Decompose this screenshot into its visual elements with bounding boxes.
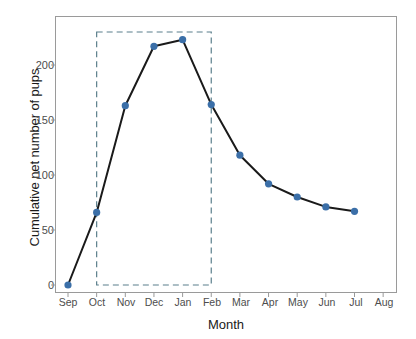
data-point-oct (93, 209, 100, 216)
data-point-jun (322, 203, 329, 210)
breeding-season-highlight-rect (97, 32, 212, 285)
x-axis-ticks (68, 293, 383, 298)
data-point-may (294, 193, 301, 200)
data-point-jul (351, 208, 358, 215)
data-point-jan (179, 36, 186, 43)
data-point-feb (208, 101, 215, 108)
data-point-nov (122, 102, 129, 109)
chart-container: Cumulative net number of pups 0 50 100 1… (0, 0, 416, 339)
data-point-apr (265, 180, 272, 187)
data-point-sep (64, 281, 71, 288)
panel-border (56, 17, 397, 293)
data-point-dec (150, 43, 157, 50)
y-axis-ticks (51, 65, 56, 285)
plot-svg (0, 0, 416, 339)
data-point-mar (236, 152, 243, 159)
